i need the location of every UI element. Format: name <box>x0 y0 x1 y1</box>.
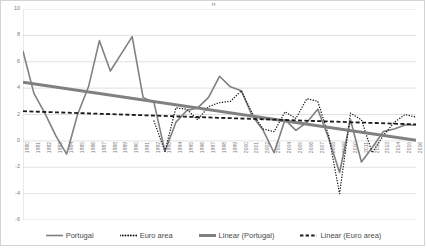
x-tick-label: 2003 <box>276 142 281 153</box>
x-tick-label: 2002 <box>265 142 270 153</box>
x-tick-label: 1982 <box>47 142 52 153</box>
chart-frame: g 1086420-2-4-6 198019811982198319841985… <box>0 0 425 246</box>
x-tick-label: 1989 <box>123 142 128 153</box>
y-tick-label: -6 <box>15 217 20 223</box>
x-tick-label: 1992 <box>156 142 161 153</box>
x-tick-label: 1984 <box>69 142 74 153</box>
thick-solid-line-icon <box>199 232 216 239</box>
x-tick-label: 1987 <box>102 142 107 153</box>
x-tick-label: 2009 <box>342 142 347 153</box>
x-tick-label: 2012 <box>375 142 380 153</box>
x-tick-label: 1980 <box>25 142 30 153</box>
trendline-linear-portugal <box>23 82 416 140</box>
y-tick-label: 2 <box>17 112 20 118</box>
dotted-line-icon <box>120 232 137 239</box>
x-tick-label: 1997 <box>211 142 216 153</box>
legend-label: Portugal <box>66 231 94 240</box>
legend-label: Linear (Portugal) <box>219 231 275 240</box>
x-tick-label: 2008 <box>331 142 336 153</box>
x-tick-label: 2001 <box>254 142 259 153</box>
x-tick-label: 2004 <box>287 142 292 153</box>
x-tick-label: 2010 <box>353 142 358 153</box>
x-tick-label: 1988 <box>113 142 118 153</box>
y-tick-label: -2 <box>15 164 20 170</box>
y-tick-label: 0 <box>17 138 20 144</box>
y-tick-label: 8 <box>17 32 20 38</box>
dashed-line-icon <box>300 232 317 239</box>
x-tick-label: 1983 <box>58 142 63 153</box>
x-tick-label: 1991 <box>145 142 150 153</box>
chart-title-partial: g <box>1 1 426 6</box>
x-tick-label: 1990 <box>134 142 139 153</box>
x-tick-label: 1985 <box>80 142 85 153</box>
y-tick-label: 10 <box>14 6 20 12</box>
chart-legend: PortugalEuro areaLinear (Portugal)Linear… <box>1 231 426 240</box>
plot-svg <box>23 9 416 220</box>
x-tick-label: 1995 <box>189 142 194 153</box>
legend-item[interactable]: Linear (Portugal) <box>199 231 275 240</box>
x-tick-label: 2011 <box>364 142 369 153</box>
legend-item[interactable]: Portugal <box>46 231 94 240</box>
x-tick-label: 2005 <box>298 142 303 153</box>
x-tick-label: 2014 <box>396 142 401 153</box>
x-tick-label: 1986 <box>91 142 96 153</box>
x-tick-label: 1999 <box>233 142 238 153</box>
x-tick-label: 1981 <box>36 142 41 153</box>
x-tick-label: 2015 <box>407 142 412 153</box>
plot-area <box>23 9 416 220</box>
y-tick-label: 4 <box>17 85 20 91</box>
legend-item[interactable]: Linear (Euro area) <box>300 231 381 240</box>
legend-label: Linear (Euro area) <box>320 231 381 240</box>
x-axis: 1980198119821983198419851986198719881989… <box>23 142 416 182</box>
x-tick-label: 2007 <box>320 142 325 153</box>
x-tick-label: 1993 <box>167 142 172 153</box>
legend-item[interactable]: Euro area <box>120 231 173 240</box>
y-tick-label: -4 <box>15 191 20 197</box>
x-tick-label: 2013 <box>385 142 390 153</box>
x-tick-label: 2000 <box>244 142 249 153</box>
x-tick-label: 1998 <box>222 142 227 153</box>
x-tick-label: 1994 <box>178 142 183 153</box>
y-axis: 1086420-2-4-6 <box>1 9 20 220</box>
solid-line-icon <box>46 232 63 239</box>
legend-label: Euro area <box>140 231 173 240</box>
y-tick-label: 6 <box>17 59 20 65</box>
x-tick-label: 2016 <box>418 142 423 153</box>
x-tick-label: 1996 <box>200 142 205 153</box>
x-tick-label: 2006 <box>309 142 314 153</box>
